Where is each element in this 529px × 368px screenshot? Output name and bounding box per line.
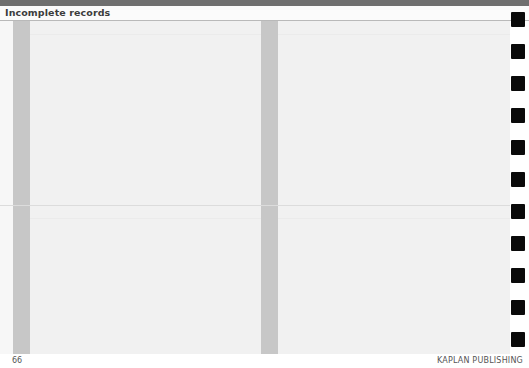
tab-marker — [511, 204, 525, 219]
tab-marker — [511, 108, 525, 123]
page-body — [0, 21, 510, 354]
publisher-name: KAPLAN PUBLISHING — [437, 356, 523, 365]
tab-marker — [511, 268, 525, 283]
tab-marker — [511, 12, 525, 27]
chapter-title: Incomplete records — [5, 6, 110, 20]
tab-marker — [511, 236, 525, 251]
tab-marker — [511, 44, 525, 59]
page-number: 66 — [12, 356, 22, 365]
tab-marker — [511, 76, 525, 91]
left-margin — [0, 21, 13, 354]
tab-marker — [511, 300, 525, 315]
tab-marker — [511, 332, 525, 347]
horizontal-divider — [0, 205, 510, 206]
middle-column-bar — [261, 21, 278, 354]
tab-marker — [511, 140, 525, 155]
tab-marker — [511, 172, 525, 187]
left-column-bar — [13, 21, 30, 354]
